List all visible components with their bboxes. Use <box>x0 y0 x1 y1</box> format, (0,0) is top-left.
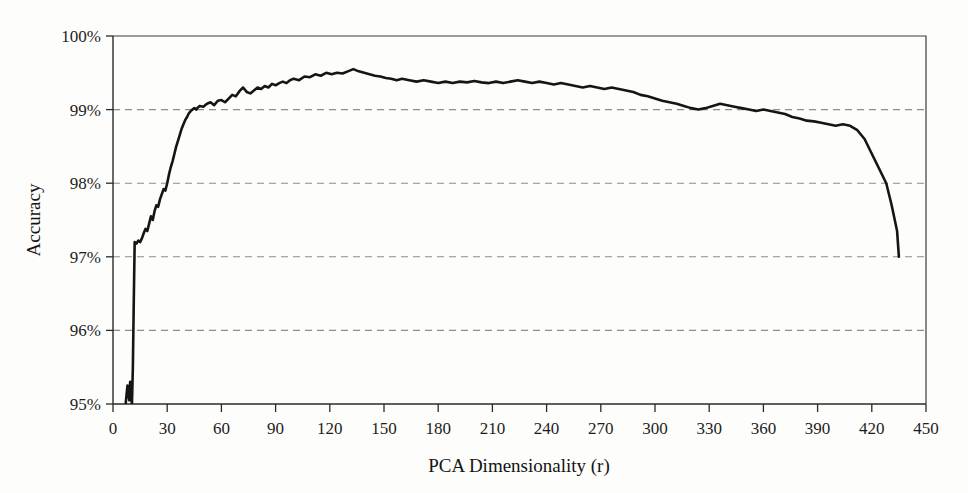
chart-page: 95%96%97%98%99%100% 03060901201501802102… <box>0 0 968 493</box>
x-tick-label-150: 150 <box>371 419 397 438</box>
x-tick-label-240: 240 <box>534 419 560 438</box>
x-axis-title: PCA Dimensionality (r) <box>428 455 610 477</box>
x-tick-label-270: 270 <box>588 419 614 438</box>
x-tick-label-120: 120 <box>317 419 343 438</box>
x-tick-label-360: 360 <box>751 419 777 438</box>
x-tick-label-60: 60 <box>213 419 230 438</box>
x-axis-tick-labels-group: 0306090120150180210240270300330360390420… <box>109 419 939 438</box>
x-tick-label-210: 210 <box>480 419 506 438</box>
y-tick-label-98: 98% <box>70 174 101 193</box>
y-tick-label-99: 99% <box>70 101 101 120</box>
plot-area-background <box>113 36 926 404</box>
x-tick-label-330: 330 <box>696 419 722 438</box>
x-tick-label-30: 30 <box>159 419 176 438</box>
y-tick-label-96: 96% <box>70 321 101 340</box>
y-tick-label-97: 97% <box>70 248 101 267</box>
y-tick-label-100: 100% <box>61 27 101 46</box>
y-axis-ticks-group <box>106 36 113 404</box>
x-tick-label-450: 450 <box>913 419 939 438</box>
x-tick-label-90: 90 <box>267 419 284 438</box>
x-tick-label-180: 180 <box>425 419 451 438</box>
x-tick-label-300: 300 <box>642 419 668 438</box>
x-tick-label-0: 0 <box>109 419 118 438</box>
x-axis-ticks-group <box>113 404 926 412</box>
y-axis-title: Accuracy <box>23 183 44 256</box>
x-tick-label-390: 390 <box>805 419 831 438</box>
y-axis-tick-labels-group: 95%96%97%98%99%100% <box>61 27 101 414</box>
accuracy-vs-pca-dimensionality-chart: 95%96%97%98%99%100% 03060901201501802102… <box>0 0 968 493</box>
y-tick-label-95: 95% <box>70 395 101 414</box>
x-tick-label-420: 420 <box>859 419 885 438</box>
